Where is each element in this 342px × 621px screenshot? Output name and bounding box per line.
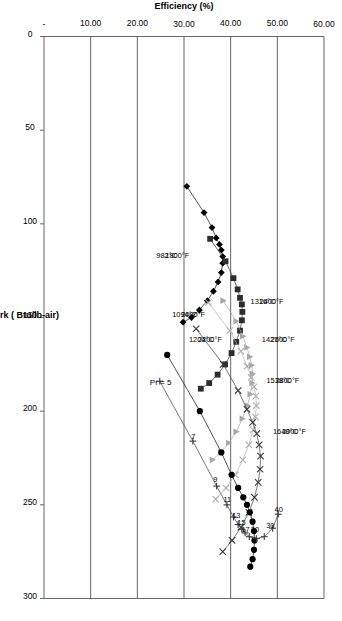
data-point	[251, 546, 257, 552]
plot-area-wrapper: 050100150200250300Net Output Work ( Btu/…	[0, 0, 342, 621]
data-point	[250, 518, 256, 524]
data-point	[223, 258, 229, 264]
data-point	[207, 235, 213, 241]
data-point	[239, 301, 245, 307]
efficiency-vs-net-output-work-chart: 050100150200250300Net Output Work ( Btu/…	[0, 0, 342, 621]
series-line-2200F	[212, 300, 252, 459]
data-point	[213, 234, 220, 241]
pressure-ratio-label-9: 9	[213, 475, 217, 484]
pressure-ratio-label-17: 17	[241, 524, 249, 533]
rotated-chart-container: 050100150200250300Net Output Work ( Btu/…	[0, 0, 342, 621]
data-point	[204, 297, 211, 304]
y-tick-label-0: -	[43, 18, 46, 28]
data-point	[244, 501, 250, 507]
data-point	[237, 294, 243, 300]
data-point	[231, 275, 237, 281]
data-point	[209, 224, 216, 231]
chart-page: 050100150200250300Net Output Work ( Btu/…	[0, 0, 342, 621]
series-label-c-2800F: 1538°C	[266, 376, 291, 385]
data-point	[247, 563, 253, 569]
data-point	[233, 428, 239, 435]
x-tick-label-0: 0	[28, 28, 33, 38]
pressure-ratio-label-40: 40	[275, 505, 283, 514]
data-point	[235, 286, 241, 292]
data-point	[216, 241, 223, 248]
data-point	[197, 408, 203, 414]
pressure-ratio-label-5: Pr = 5	[150, 377, 172, 386]
data-point	[220, 297, 226, 304]
pressure-ratio-label-20: 20	[251, 524, 259, 533]
x-tick-label-250: 250	[23, 496, 37, 506]
data-point	[250, 556, 256, 562]
data-point	[198, 385, 204, 391]
y-tick-label-50: 50.00	[267, 18, 289, 28]
x-axis-title: Net Output Work ( Btu/lb-air)	[0, 309, 59, 319]
pressure-ratio-label-11: 11	[224, 495, 232, 504]
series-label-c-2000F: 1094°C	[172, 310, 197, 319]
data-point	[206, 380, 212, 386]
data-point	[164, 351, 170, 357]
y-tick-label-30: 30.00	[173, 18, 195, 28]
y-tick-label-40: 40.00	[220, 18, 242, 28]
data-point	[240, 415, 246, 422]
data-point	[218, 269, 225, 276]
data-point	[229, 471, 235, 477]
data-point	[229, 350, 235, 356]
x-tick-label-50: 50	[25, 122, 35, 132]
series-label-c-2200F: 1204°C	[189, 334, 214, 343]
y-tick-label-60: 60.00	[313, 18, 335, 28]
series-label-c-1800F: 982°C	[156, 250, 177, 259]
y-tick-label-20: 20.00	[127, 18, 149, 28]
series-label-c-2400F: 1316°C	[251, 297, 276, 306]
data-point	[239, 308, 245, 314]
x-tick-label-200: 200	[23, 403, 37, 413]
pressure-ratio-label-7: 7	[191, 432, 195, 441]
data-point	[201, 209, 208, 216]
data-point	[240, 494, 246, 500]
data-point	[235, 484, 241, 490]
x-tick-label-100: 100	[23, 215, 37, 225]
data-point	[210, 287, 217, 294]
data-point	[239, 317, 245, 323]
y-tick-label-10: 10.00	[80, 18, 102, 28]
series-label-c-2600F: 1427°C	[262, 334, 287, 343]
series-label-c-3000F: 1649°C	[273, 426, 298, 435]
y-axis-title: Efficiency (%)	[154, 0, 213, 10]
pressure-ratio-label-30: 30	[266, 521, 274, 530]
data-point	[226, 439, 232, 446]
data-point	[215, 278, 222, 285]
data-point	[215, 371, 221, 377]
x-tick-label-300: 300	[23, 590, 37, 600]
